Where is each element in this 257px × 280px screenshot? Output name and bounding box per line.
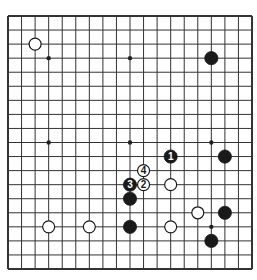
black-stone [123, 220, 136, 233]
black-stone [205, 234, 218, 247]
star-point [46, 140, 50, 144]
move-number-label: 1 [168, 151, 174, 162]
move-number-label: 3 [127, 179, 133, 190]
white-stone [165, 179, 177, 191]
go-board: 1432 [0, 0, 257, 280]
black-stone [205, 52, 218, 65]
move-number-label: 4 [141, 165, 147, 176]
black-stone [218, 150, 231, 163]
star-point [209, 225, 213, 229]
white-stone [83, 221, 95, 233]
black-stone [123, 192, 136, 205]
white-stone-2: 2 [138, 179, 150, 191]
white-stone [192, 207, 204, 219]
black-stone-3: 3 [123, 178, 136, 191]
move-number-label: 2 [141, 179, 147, 190]
star-point [46, 56, 50, 60]
white-stone [43, 221, 55, 233]
white-stone [165, 221, 177, 233]
white-stone [29, 38, 41, 50]
star-point [209, 140, 213, 144]
white-stone-4: 4 [138, 165, 150, 177]
star-point [128, 56, 132, 60]
black-stone [218, 206, 231, 219]
star-point [128, 140, 132, 144]
black-stone-1: 1 [164, 150, 177, 163]
